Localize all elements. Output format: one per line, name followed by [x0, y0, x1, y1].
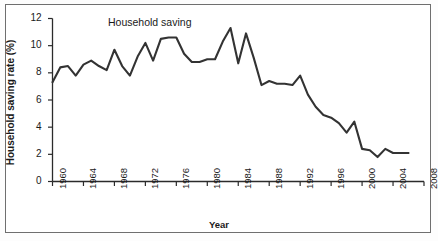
line-chart-plot [0, 0, 438, 241]
x-tick-label: 1996 [335, 167, 346, 188]
y-tick-label: 4 [22, 121, 42, 132]
series-annotation-label: Household saving [108, 16, 191, 28]
x-tick-label: 2000 [366, 167, 377, 188]
y-tick-label: 12 [22, 12, 42, 23]
x-tick-label: 1980 [211, 167, 222, 188]
x-tick-label: 1984 [242, 167, 253, 188]
tick-marks-group [48, 19, 424, 187]
x-tick-label: 1988 [273, 167, 284, 188]
y-tick-label: 8 [22, 66, 42, 77]
axes-group [53, 19, 425, 182]
y-tick-label: 10 [22, 39, 42, 50]
y-tick-label: 0 [22, 175, 42, 186]
x-tick-label: 1972 [149, 167, 160, 188]
x-tick-label: 2004 [397, 167, 408, 188]
x-tick-label: 1968 [118, 167, 129, 188]
x-axis-title: Year [0, 219, 438, 230]
x-tick-label: 1960 [57, 167, 68, 188]
x-tick-label: 2008 [428, 167, 438, 188]
figure-container: Household saving rate (%) 024681012 1960… [0, 0, 438, 241]
y-tick-label: 2 [22, 148, 42, 159]
household-saving-line [53, 28, 409, 157]
x-tick-label: 1976 [180, 167, 191, 188]
x-tick-label: 1964 [87, 167, 98, 188]
y-tick-label: 6 [22, 94, 42, 105]
x-tick-label: 1992 [304, 167, 315, 188]
